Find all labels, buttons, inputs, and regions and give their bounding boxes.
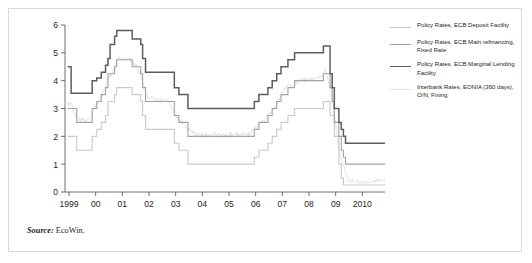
legend-swatch-eonia — [390, 85, 411, 94]
x-tick-label: 01 — [118, 199, 128, 209]
legend-item: Interbank Rates, EONIA (360 days), O/N, … — [390, 83, 518, 99]
x-tick-label: 07 — [278, 199, 288, 209]
y-tick-label: 2 — [53, 132, 58, 142]
legend-item: Policy Rates, ECB Main refinancing, Fixe… — [390, 38, 518, 54]
x-tick-label: 06 — [251, 199, 261, 209]
series-line — [68, 60, 385, 164]
source-label: Source: — [27, 226, 54, 235]
legend-label-deposit: Policy Rates, ECB Deposit Facility — [417, 21, 509, 29]
x-tick-label: 1999 — [59, 199, 78, 209]
x-tick-label: 05 — [224, 199, 234, 209]
legend-swatch-deposit — [390, 23, 411, 32]
legend-label-marginal-lending: Policy Rates, ECB Marginal Lending Facil… — [417, 60, 518, 76]
source-note: Source: EcoWin. — [27, 226, 85, 235]
x-tick-label: 02 — [144, 199, 154, 209]
figure-panel: 01234561999000102030405060708092010 Poli… — [8, 8, 522, 252]
series-line — [68, 31, 385, 144]
x-tick-label: 04 — [198, 199, 208, 209]
source-value: EcoWin. — [54, 226, 85, 235]
y-tick-label: 5 — [53, 48, 58, 58]
y-tick-label: 4 — [53, 76, 58, 86]
x-tick-label: 03 — [171, 199, 181, 209]
x-tick-label: 00 — [91, 199, 101, 209]
legend-label-eonia: Interbank Rates, EONIA (360 days), O/N, … — [417, 83, 518, 99]
legend-item: Policy Rates, ECB Deposit Facility — [390, 21, 518, 32]
legend-swatch-main-refinancing — [390, 40, 411, 49]
y-tick-label: 0 — [53, 187, 58, 197]
x-tick-label: 09 — [331, 199, 341, 209]
x-tick-label: 08 — [304, 199, 314, 209]
chart-legend: Policy Rates, ECB Deposit Facility Polic… — [390, 21, 518, 99]
y-tick-label: 3 — [53, 104, 58, 114]
legend-swatch-marginal-lending — [390, 62, 411, 71]
x-tick-label: 2010 — [353, 199, 372, 209]
legend-item: Policy Rates, ECB Marginal Lending Facil… — [390, 60, 518, 76]
legend-label-main-refinancing: Policy Rates, ECB Main refinancing, Fixe… — [417, 38, 518, 54]
y-tick-label: 1 — [53, 160, 58, 170]
y-tick-label: 6 — [53, 20, 58, 30]
